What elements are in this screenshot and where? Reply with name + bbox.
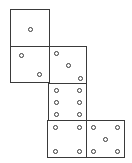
die-face-5 xyxy=(86,120,125,158)
pip-icon xyxy=(66,63,71,68)
pip-icon xyxy=(53,125,58,130)
pip-icon xyxy=(54,88,59,93)
die-face-6 xyxy=(48,83,87,121)
die-face-4 xyxy=(47,120,87,158)
pip-icon xyxy=(115,125,120,130)
pip-icon xyxy=(77,125,82,130)
die-face-2 xyxy=(10,46,50,83)
pip-icon xyxy=(19,53,24,58)
pip-icon xyxy=(77,100,82,105)
pip-icon xyxy=(91,149,96,154)
pip-icon xyxy=(103,137,108,142)
pip-icon xyxy=(77,88,82,93)
pip-icon xyxy=(54,112,59,117)
pip-icon xyxy=(53,149,58,154)
pip-icon xyxy=(77,112,82,117)
pip-icon xyxy=(54,51,59,56)
die-face-3 xyxy=(49,46,87,84)
pip-icon xyxy=(54,100,59,105)
die-face-1 xyxy=(10,9,50,47)
pip-icon xyxy=(37,72,42,77)
pip-icon xyxy=(115,149,120,154)
pip-icon xyxy=(78,76,83,81)
pip-icon xyxy=(77,149,82,154)
pip-icon xyxy=(91,125,96,130)
pip-icon xyxy=(28,27,33,32)
